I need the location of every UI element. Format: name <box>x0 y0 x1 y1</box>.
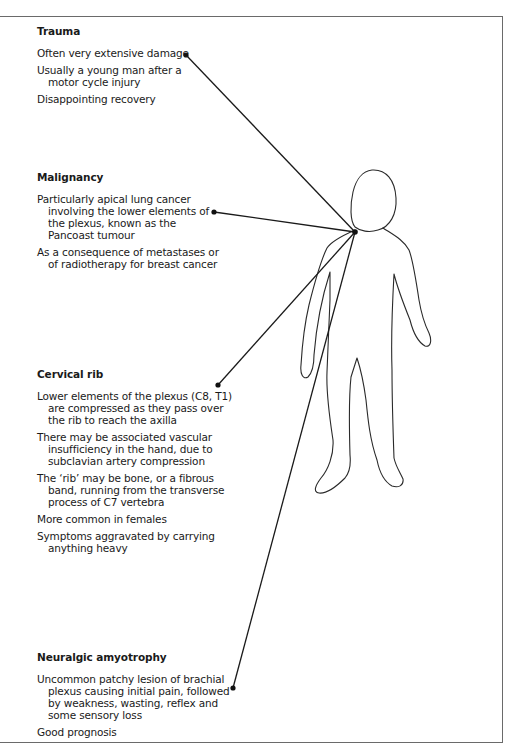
section-title: Trauma <box>37 25 277 38</box>
section-title: Malignancy <box>37 171 277 184</box>
section-title: Cervical rib <box>37 368 277 381</box>
list-item: Usually a young man after a motor cycle … <box>37 64 208 88</box>
head-outline <box>351 170 396 232</box>
section-trauma: Trauma Often very extensive damage Usual… <box>37 25 277 110</box>
section-title: Neuralgic amyotrophy <box>37 651 277 664</box>
list-item: There may be associated vascular insuffi… <box>37 431 228 467</box>
list-item: Disappointing recovery <box>37 93 277 105</box>
list-item: The ‘rib’ may be bone, or a fibrous band… <box>37 472 230 508</box>
list-item: Good prognosis <box>37 726 277 738</box>
section-neuralgic-amyotrophy: Neuralgic amyotrophy Uncommon patchy les… <box>37 651 277 743</box>
section-cervical-rib: Cervical rib Lower elements of the plexu… <box>37 368 277 559</box>
list-item: Symptoms aggravated by carrying anything… <box>37 530 228 554</box>
list-item: Often very extensive damage <box>37 47 277 59</box>
list-item: More common in females <box>37 513 277 525</box>
plexus-hub-dot <box>352 229 358 235</box>
list-item: Uncommon patchy lesion of brachial plexu… <box>37 673 244 721</box>
section-malignancy: Malignancy Particularly apical lung canc… <box>37 171 277 275</box>
list-item: As a consequence of metastases or of rad… <box>37 246 220 270</box>
list-item: Particularly apical lung cancer involvin… <box>37 193 220 241</box>
list-item: Lower elements of the plexus (C8, T1) ar… <box>37 390 238 426</box>
